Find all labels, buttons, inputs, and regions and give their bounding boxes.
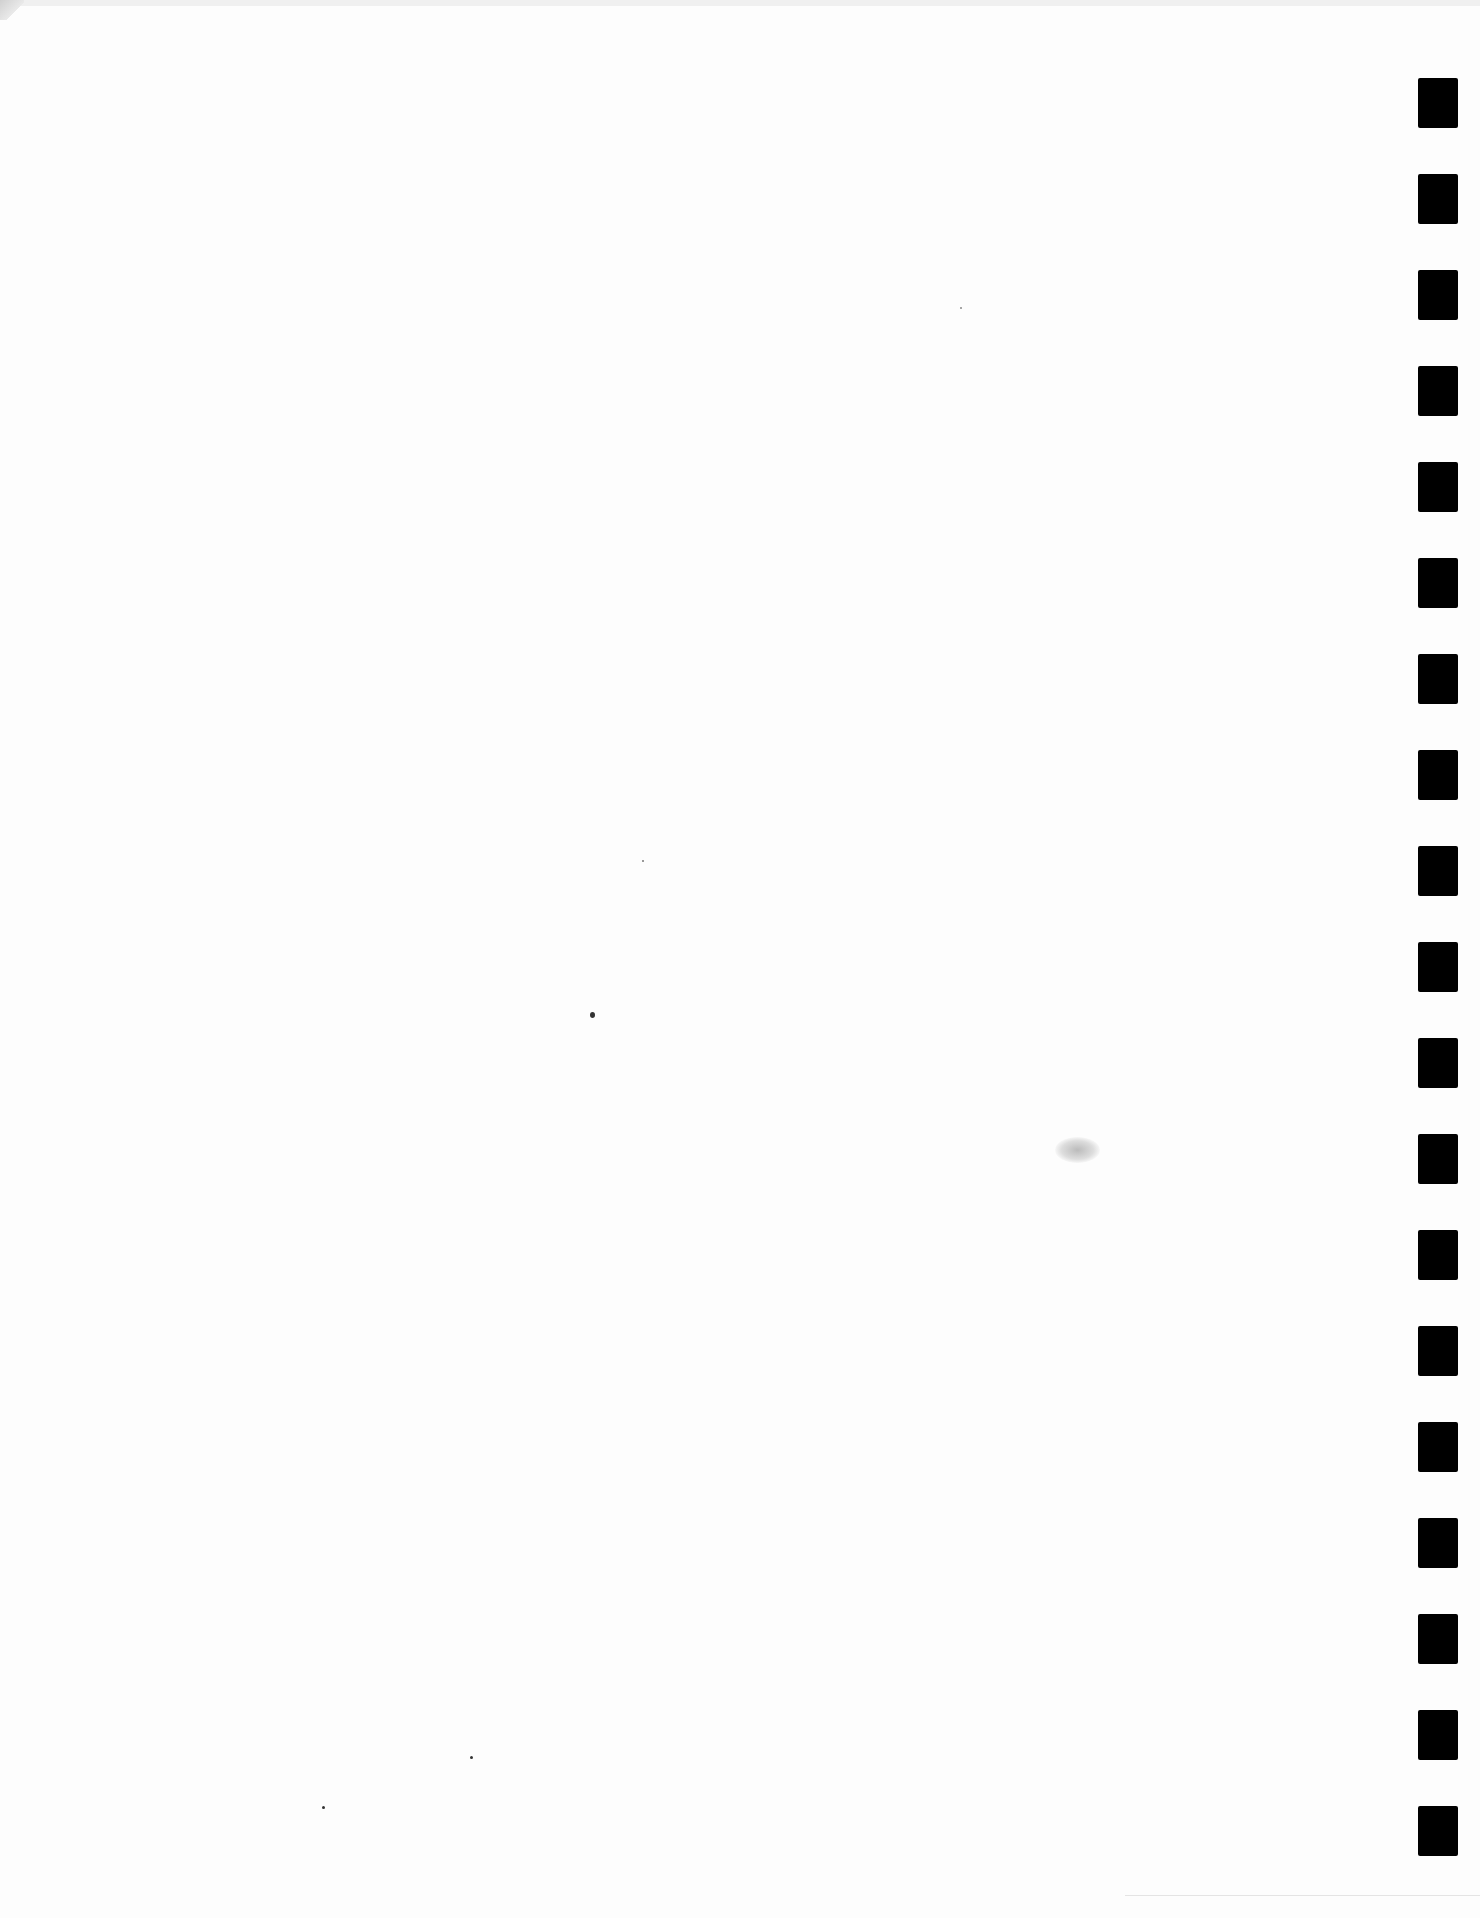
timing-mark [1418, 558, 1458, 608]
speck [470, 1756, 473, 1759]
scan-edge-line [1125, 1895, 1480, 1896]
timing-mark [1418, 78, 1458, 128]
timing-mark [1418, 654, 1458, 704]
timing-mark [1418, 1806, 1458, 1856]
scanned-blank-page [0, 0, 1480, 1918]
speck [960, 307, 962, 309]
timing-mark [1418, 1326, 1458, 1376]
timing-mark [1418, 1230, 1458, 1280]
timing-mark [1418, 1518, 1458, 1568]
timing-mark [1418, 1134, 1458, 1184]
timing-mark [1418, 750, 1458, 800]
timing-mark [1418, 270, 1458, 320]
speck [322, 1806, 325, 1809]
speck [590, 1012, 595, 1018]
page-corner-fold [0, 0, 24, 20]
speck [642, 860, 644, 862]
timing-mark [1418, 942, 1458, 992]
timing-mark [1418, 174, 1458, 224]
scan-top-shadow [0, 0, 1480, 6]
timing-mark [1418, 1710, 1458, 1760]
timing-mark [1418, 1614, 1458, 1664]
timing-mark [1418, 1422, 1458, 1472]
timing-mark [1418, 1038, 1458, 1088]
timing-mark [1418, 846, 1458, 896]
smudge-mark [1055, 1137, 1100, 1163]
timing-mark [1418, 366, 1458, 416]
timing-mark [1418, 462, 1458, 512]
